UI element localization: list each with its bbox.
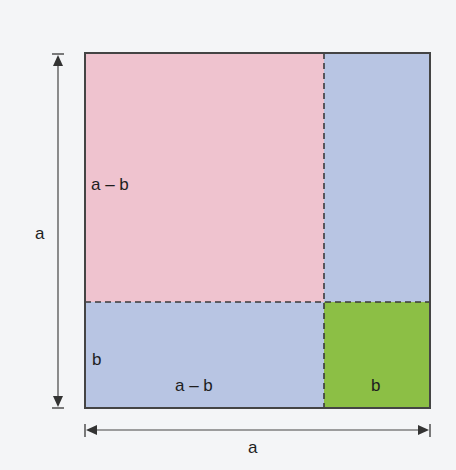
arrowhead-right-icon (418, 425, 429, 435)
label-bottom-left-side: b (92, 350, 101, 369)
label-bottom-right-width: b (371, 376, 380, 395)
vertical-dimension-arrow (52, 54, 64, 408)
arrowhead-up-icon (53, 55, 63, 66)
label-bottom-left-width: a – b (175, 376, 213, 395)
label-horizontal-dimension: a (248, 438, 258, 457)
region-top-right-rect (324, 53, 430, 302)
diagram-canvas: a – b b a – b b a a (0, 0, 456, 470)
horizontal-dimension-arrow (85, 424, 430, 437)
arrowhead-down-icon (53, 396, 63, 407)
label-vertical-dimension: a (35, 224, 45, 243)
arrowhead-left-icon (86, 425, 97, 435)
label-top-left-side: a – b (91, 175, 129, 194)
